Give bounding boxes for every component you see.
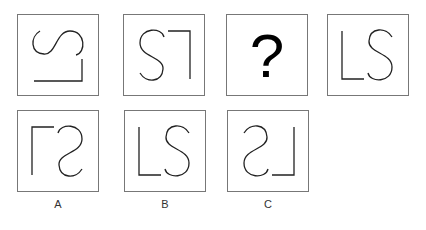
ls-rotated-figure xyxy=(18,15,98,95)
sequence-box-2 xyxy=(123,14,205,96)
ls-rotated-figure xyxy=(124,15,204,95)
option-box-b[interactable] xyxy=(124,110,206,192)
option-label-b: B xyxy=(124,198,206,210)
ls-option-figure xyxy=(228,111,308,191)
option-box-a[interactable] xyxy=(17,110,99,192)
ls-upright-figure xyxy=(328,15,408,95)
question-mark: ? xyxy=(227,15,307,95)
ls-option-figure xyxy=(125,111,205,191)
option-box-c[interactable] xyxy=(227,110,309,192)
sequence-box-1 xyxy=(17,14,99,96)
option-label-a: A xyxy=(17,198,99,210)
option-label-c: C xyxy=(227,198,309,210)
sequence-box-3: ? xyxy=(226,14,308,96)
sequence-box-4 xyxy=(327,14,409,96)
ls-option-figure xyxy=(18,111,98,191)
